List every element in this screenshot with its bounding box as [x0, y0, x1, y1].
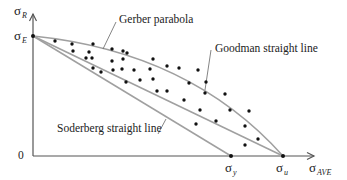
origin-label: 0 — [18, 150, 24, 162]
x-axis-label: σAVE — [309, 161, 331, 177]
diagram-canvas — [0, 0, 347, 180]
sigma-u-label: σu — [276, 161, 288, 177]
gerber-label: Gerber parabola — [119, 14, 193, 26]
goodman-label: Goodman straight line — [215, 43, 318, 55]
y-axis-label: σR — [14, 4, 27, 20]
soderberg-label: Soderberg straight line — [57, 123, 162, 135]
sigma-e-point — [31, 34, 35, 38]
axes — [30, 14, 315, 160]
sigma-u-point — [281, 154, 285, 158]
soderberg-line — [33, 36, 231, 156]
sigma-y-point — [229, 154, 233, 158]
sigma-e-label: σE — [14, 29, 27, 45]
gerber-leader — [103, 22, 116, 49]
goodman-leader — [205, 50, 211, 90]
sigma-y-label: σy — [225, 161, 237, 177]
